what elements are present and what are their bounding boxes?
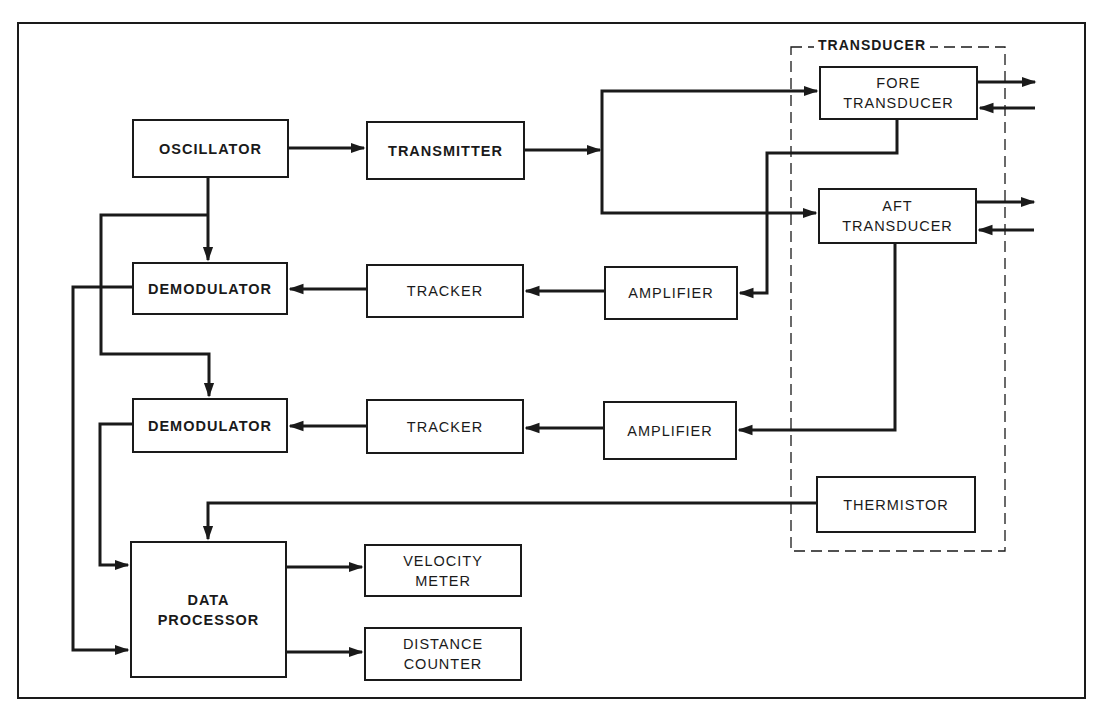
transducer-group-label: TRANSDUCER [814,37,930,53]
line-thermistor-processor [208,503,816,539]
thermistor-block: THERMISTOR [816,476,976,533]
transmitter-label: TRANSMITTER [388,141,503,161]
aft-transducer-label-2: TRANSDUCER [842,216,953,236]
tracker-block-lower: TRACKER [366,399,524,454]
tracker-upper-label: TRACKER [407,281,483,301]
line-aft-amplifier2 [739,244,895,430]
fore-transducer-label-2: TRANSDUCER [843,93,954,113]
data-processor-label-2: PROCESSOR [158,610,260,630]
thermistor-label: THERMISTOR [843,495,949,515]
tracker-block-upper: TRACKER [366,264,524,318]
distance-counter-label-1: DISTANCE [403,634,483,654]
fore-transducer-block: FORE TRANSDUCER [819,66,978,120]
velocity-meter-block: VELOCITY METER [364,544,522,597]
aft-transducer-label-1: AFT [882,196,912,216]
oscillator-block: OSCILLATOR [132,119,289,178]
demodulator-block-lower: DEMODULATOR [132,398,288,453]
amplifier-block-upper: AMPLIFIER [604,266,738,320]
data-processor-block: DATA PROCESSOR [130,541,287,678]
velocity-meter-label-1: VELOCITY [403,551,483,571]
line-split-fore [602,91,817,150]
oscillator-label: OSCILLATOR [159,139,262,159]
amplifier-block-lower: AMPLIFIER [603,401,737,460]
demodulator-lower-label: DEMODULATOR [148,416,272,436]
distance-counter-block: DISTANCE COUNTER [364,627,522,681]
data-processor-label-1: DATA [187,590,229,610]
distance-counter-label-2: COUNTER [404,654,483,674]
line-split-aft [602,150,816,213]
tracker-lower-label: TRACKER [407,417,483,437]
line-demodulator2-processor [100,424,132,565]
aft-transducer-block: AFT TRANSDUCER [818,188,977,244]
amplifier-lower-label: AMPLIFIER [627,421,713,441]
demodulator-block-upper: DEMODULATOR [132,262,288,315]
fore-transducer-label-1: FORE [876,73,920,93]
transmitter-block: TRANSMITTER [366,121,525,180]
demodulator-upper-label: DEMODULATOR [148,279,272,299]
amplifier-upper-label: AMPLIFIER [628,283,714,303]
velocity-meter-label-2: METER [415,571,471,591]
